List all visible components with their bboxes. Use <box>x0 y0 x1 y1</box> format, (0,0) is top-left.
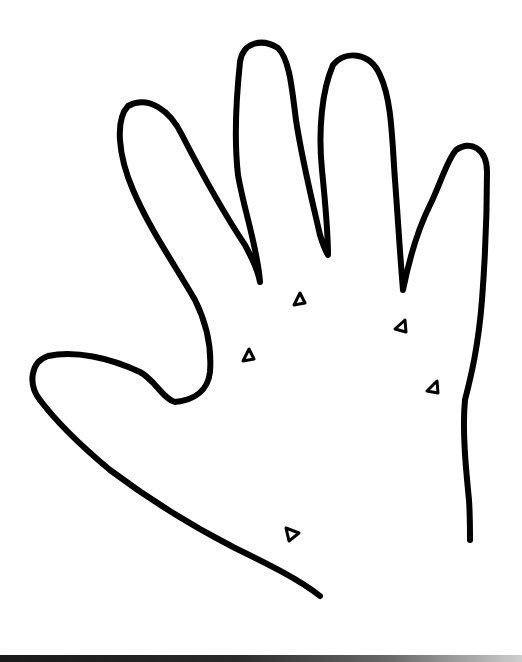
triangle-marker-icon <box>286 528 299 541</box>
triangle-marker-icon <box>395 320 406 332</box>
triangle-marker-icon <box>294 293 305 305</box>
markers <box>243 293 438 541</box>
hand-outline-icon <box>0 0 522 662</box>
hand-contour <box>32 43 487 596</box>
triangle-marker-icon <box>427 381 438 393</box>
bottom-border <box>0 655 522 662</box>
triangle-marker-icon <box>243 349 254 361</box>
hand-diagram <box>0 0 522 662</box>
